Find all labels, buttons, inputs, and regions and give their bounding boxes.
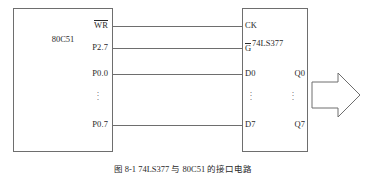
pin-label-g-text: G [245,44,251,53]
latch-input-ellipsis: ... [245,89,257,99]
pin-label-d0: D0 [245,69,256,78]
mcu-pin-ellipsis: ... [88,89,108,99]
pin-label-p00: P0.0 [33,69,108,78]
pin-label-g: G [245,44,251,53]
pin-label-p07: P0.7 [33,120,108,129]
latch-output-ellipsis: ... [287,89,299,99]
pin-label-ck: CK [245,21,257,30]
pin-label-q7: Q7 [272,120,305,129]
wire-p07-to-d7 [113,125,243,126]
wire-p27-to-g [113,48,243,49]
wire-wr-to-ck [113,26,243,27]
pin-label-wr-text: WR [94,21,108,30]
pin-label-d7: D7 [245,120,256,129]
latch-chip-label: 74LS377 [252,38,283,48]
right-block-arrow-icon [311,70,363,120]
pin-label-wr: WR [33,21,108,30]
figure-caption: 图 8-1 74LS377 与 80C51 的接口电路 [0,162,366,173]
interface-circuit-diagram: 80C51 WR P2.7 P0.0 ... P0.7 CK G 74LS377… [0,0,366,173]
pin-label-p27: P2.7 [33,43,108,52]
pin-label-q0: Q0 [272,69,305,78]
wire-p00-to-d0 [113,74,243,75]
